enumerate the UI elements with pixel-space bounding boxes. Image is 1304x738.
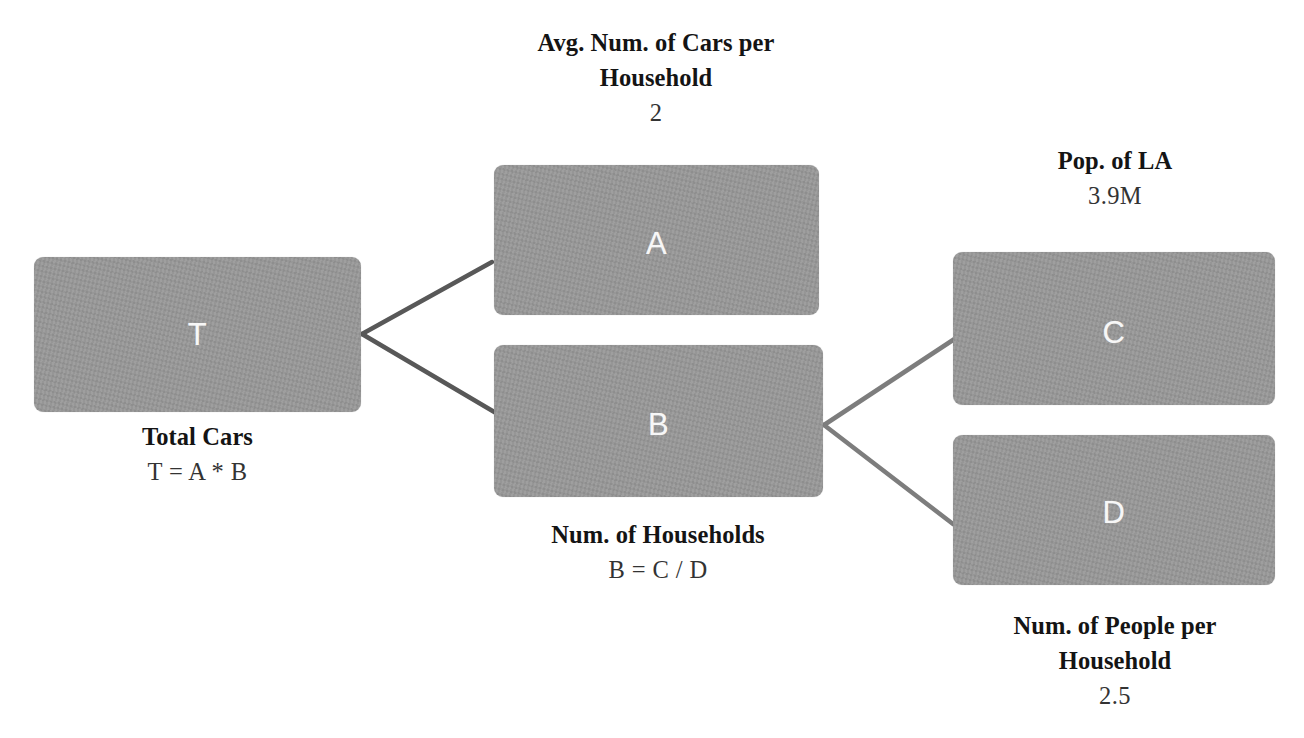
diagram-canvas: T Total Cars T = A * B A Avg. Num. of Ca… bbox=[0, 0, 1304, 738]
caption-num-households: Num. of Households B = C / D bbox=[473, 518, 843, 588]
node-people-per-household[interactable]: D bbox=[953, 435, 1275, 585]
node-avg-cars-per-household[interactable]: A bbox=[494, 165, 819, 315]
edge-group-right bbox=[824, 338, 956, 524]
node-letter-a: A bbox=[494, 228, 819, 259]
caption-people-per-household-title-line2: Household bbox=[940, 644, 1290, 679]
caption-total-cars-title: Total Cars bbox=[30, 420, 365, 455]
caption-total-cars: Total Cars T = A * B bbox=[30, 420, 365, 490]
caption-pop-of-la-value: 3.9M bbox=[945, 179, 1285, 214]
node-letter-d: D bbox=[953, 497, 1275, 528]
node-num-households[interactable]: B bbox=[494, 345, 823, 497]
caption-people-per-household-value: 2.5 bbox=[940, 679, 1290, 714]
caption-avg-cars-value: 2 bbox=[476, 96, 836, 131]
caption-num-households-value: B = C / D bbox=[473, 553, 843, 588]
node-letter-t: T bbox=[34, 319, 361, 350]
edge-group-left bbox=[362, 262, 496, 413]
caption-pop-of-la: Pop. of LA 3.9M bbox=[945, 144, 1285, 214]
caption-avg-cars-title-line2: Household bbox=[476, 61, 836, 96]
caption-total-cars-value: T = A * B bbox=[30, 455, 365, 490]
node-letter-b: B bbox=[494, 409, 823, 440]
caption-people-per-household-title-line1: Num. of People per bbox=[940, 609, 1290, 644]
edge-b-to-c bbox=[824, 338, 956, 425]
node-total-cars[interactable]: T bbox=[34, 257, 361, 412]
caption-avg-cars-title-line1: Avg. Num. of Cars per bbox=[476, 26, 836, 61]
node-letter-c: C bbox=[953, 317, 1275, 348]
edge-t-to-b bbox=[362, 334, 496, 413]
caption-num-households-title: Num. of Households bbox=[473, 518, 843, 553]
caption-pop-of-la-title: Pop. of LA bbox=[945, 144, 1285, 179]
edge-t-to-a bbox=[362, 262, 492, 334]
caption-avg-cars-per-household: Avg. Num. of Cars per Household 2 bbox=[476, 26, 836, 130]
node-pop-of-la[interactable]: C bbox=[953, 252, 1275, 405]
caption-people-per-household: Num. of People per Household 2.5 bbox=[940, 609, 1290, 713]
edge-b-to-d bbox=[824, 425, 953, 524]
